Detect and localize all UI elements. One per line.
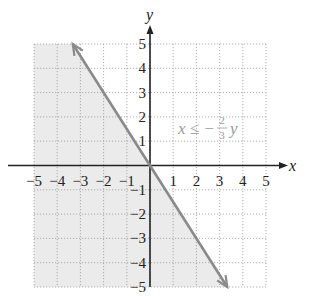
x-tick-label: 1: [169, 173, 177, 189]
y-axis-arrow-icon: [147, 25, 154, 34]
inequality-lhs: x ≤ −: [177, 119, 215, 138]
fraction-numerator: 2: [219, 114, 225, 126]
x-axis-label: x: [288, 157, 296, 174]
y-tick-label: 5: [139, 36, 147, 52]
svg-text:x ≤ −: x ≤ −: [177, 119, 215, 138]
y-tick-label: 2: [139, 109, 147, 125]
inequality-rhs: y: [228, 119, 238, 138]
x-tick-label: −3: [72, 173, 88, 189]
y-tick-label: −4: [130, 255, 146, 271]
y-tick-label: −3: [130, 230, 146, 246]
x-axis-arrow-icon: [279, 162, 288, 169]
y-tick-label: −1: [130, 182, 146, 198]
inequality-annotation: x ≤ − 2 3 y: [177, 114, 238, 141]
inequality-graph: −5−4−3−2−11234554321−1−2−3−4−5 x y x ≤ −…: [0, 0, 313, 296]
y-tick-label: 1: [139, 133, 147, 149]
y-axis-label: y: [144, 6, 154, 24]
x-tick-label: 3: [216, 173, 224, 189]
x-tick-label: −4: [49, 173, 65, 189]
y-tick-label: −2: [130, 206, 146, 222]
x-tick-label: −5: [26, 173, 42, 189]
y-tick-label: 4: [139, 60, 147, 76]
x-tick-label: 2: [193, 173, 201, 189]
x-tick-label: −2: [96, 173, 112, 189]
fraction-denominator: 3: [219, 129, 225, 141]
y-tick-label: −5: [130, 279, 146, 295]
x-tick-label: 4: [239, 173, 247, 189]
y-tick-label: 3: [139, 85, 147, 101]
x-tick-label: 5: [262, 173, 270, 189]
